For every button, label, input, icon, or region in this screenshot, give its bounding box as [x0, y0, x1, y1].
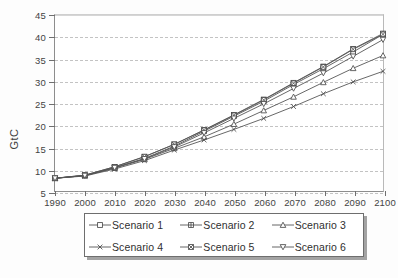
marker-open-triangle-up — [231, 121, 237, 126]
y-tick-label: 35 — [35, 54, 46, 65]
x-tick-2000 — [85, 191, 86, 196]
marker-open-triangle-down — [291, 86, 297, 91]
legend-marker-open-triangle-up-icon — [272, 219, 294, 231]
x-tick-label: 2080 — [314, 197, 336, 208]
marker-open-triangle-down — [350, 54, 356, 59]
x-tick-2040 — [205, 191, 206, 196]
legend-item-scenario-4[interactable]: Scenario 4 — [89, 236, 180, 258]
marker-open-square — [98, 223, 103, 228]
legend-marker-cross-x-icon — [89, 241, 111, 253]
x-tick-label: 2040 — [194, 197, 216, 208]
x-tick-label: 2000 — [74, 197, 96, 208]
legend-label: Scenario 6 — [295, 241, 346, 253]
series-scenario-2 — [53, 31, 386, 181]
chart-legend: Scenario 1Scenario 2Scenario 3 Scenario … — [84, 213, 364, 257]
y-tick-label: 15 — [35, 143, 46, 154]
marker-open-triangle-down — [321, 71, 327, 76]
y-tick-label: 45 — [35, 10, 46, 21]
marker-square-plus — [189, 223, 194, 228]
marker-open-triangle-up — [261, 108, 267, 113]
x-tick-2070 — [295, 191, 296, 196]
x-tick-label: 2050 — [224, 197, 246, 208]
marker-open-triangle-up — [380, 53, 386, 58]
marker-cross-x — [321, 91, 326, 96]
x-tick-2060 — [265, 191, 266, 196]
marker-open-triangle-up — [291, 94, 297, 99]
marker-open-triangle-up — [321, 80, 327, 85]
x-tick-label: 1990 — [44, 197, 66, 208]
x-tick-2020 — [145, 191, 146, 196]
x-tick-2010 — [115, 191, 116, 196]
legend-item-scenario-5[interactable]: Scenario 5 — [180, 236, 271, 258]
legend-label: Scenario 5 — [203, 241, 254, 253]
marker-open-triangle-down — [380, 37, 386, 42]
legend-item-scenario-2[interactable]: Scenario 2 — [180, 214, 271, 236]
legend-marker-square-plus-icon — [180, 219, 202, 231]
x-tick-label: 2020 — [134, 197, 156, 208]
x-tick-2100 — [385, 191, 386, 196]
legend-item-scenario-3[interactable]: Scenario 3 — [272, 214, 363, 236]
x-tick-2050 — [235, 191, 236, 196]
x-tick-1990 — [55, 191, 56, 196]
legend-item-scenario-6[interactable]: Scenario 6 — [272, 236, 363, 258]
x-tick-2080 — [325, 191, 326, 196]
legend-marker-open-square-icon — [89, 219, 111, 231]
legend-marker-filled-square-icon — [180, 241, 202, 253]
x-tick-label: 2090 — [344, 197, 366, 208]
x-tick-2090 — [355, 191, 356, 196]
y-tick-label: 20 — [35, 121, 46, 132]
plot-area: 51015202530354045 1990200020102020203020… — [54, 14, 384, 192]
y-tick-label: 25 — [35, 99, 46, 110]
marker-cross-x — [351, 80, 356, 85]
chart-figure: GtC 51015202530354045 199020002010202020… — [0, 0, 398, 278]
marker-cross-x — [381, 69, 386, 74]
marker-filled-square — [351, 47, 356, 52]
y-axis-title: GtC — [8, 129, 20, 150]
series-scenario-4 — [53, 69, 386, 181]
legend-row-1: Scenario 1Scenario 2Scenario 3 — [85, 214, 363, 236]
y-tick-label: 30 — [35, 76, 46, 87]
x-tick-2030 — [175, 191, 176, 196]
legend-label: Scenario 4 — [112, 241, 163, 253]
y-tick-label: 40 — [35, 32, 46, 43]
x-tick-label: 2010 — [104, 197, 126, 208]
marker-filled-square — [381, 32, 386, 37]
series-plot — [55, 15, 383, 191]
x-tick-label: 2060 — [254, 197, 276, 208]
legend-label: Scenario 2 — [203, 219, 254, 231]
marker-filled-square — [291, 81, 296, 86]
legend-row-2: Scenario 4Scenario 5Scenario 6 — [85, 236, 363, 258]
legend-label: Scenario 1 — [112, 219, 163, 231]
marker-cross-x — [291, 104, 296, 109]
marker-open-triangle-up — [350, 65, 356, 70]
x-tick-label: 2070 — [284, 197, 306, 208]
marker-cross-x — [232, 127, 237, 132]
gridline-5 — [55, 193, 383, 194]
x-tick-label: 2100 — [374, 197, 396, 208]
marker-cross-x — [261, 116, 266, 121]
legend-marker-open-triangle-down-icon — [272, 241, 294, 253]
x-tick-label: 2030 — [164, 197, 186, 208]
legend-label: Scenario 3 — [295, 219, 346, 231]
series-scenario-1 — [53, 32, 386, 181]
series-scenario-5 — [53, 32, 386, 181]
marker-filled-square — [321, 65, 326, 70]
marker-filled-square — [189, 245, 194, 250]
series-scenario-3 — [52, 53, 386, 181]
y-tick-label: 10 — [35, 165, 46, 176]
marker-open-triangle-down — [261, 102, 267, 107]
legend-item-scenario-1[interactable]: Scenario 1 — [89, 214, 180, 236]
